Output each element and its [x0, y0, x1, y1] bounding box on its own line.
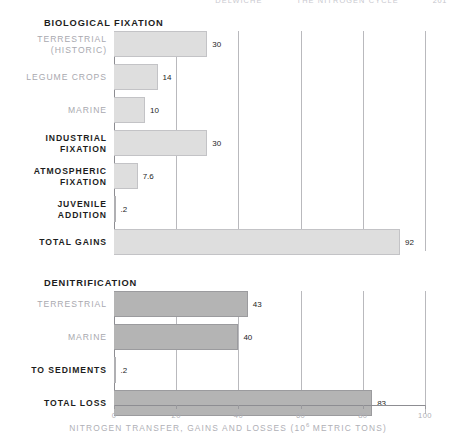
bar-value-label: 30 — [207, 139, 221, 148]
bar-label: JUVENILEADDITION — [57, 199, 107, 220]
x-axis-tick — [425, 405, 426, 409]
bar — [114, 163, 138, 189]
bar — [114, 64, 158, 90]
bar-row: MARINE40 — [114, 324, 425, 350]
x-axis-tick-label: 80 — [358, 411, 367, 420]
x-axis-tick — [363, 405, 364, 409]
bar-row: TOTAL LOSS83 — [114, 390, 425, 416]
bar — [114, 291, 248, 317]
x-axis: 020406080100 — [114, 405, 425, 406]
bar-value-label: 10 — [145, 106, 159, 115]
x-axis-title-main: NITROGEN TRANSFER, GAINS AND LOSSES (10 — [69, 423, 306, 433]
bar-row: TERRESTRIAL43 — [114, 291, 425, 317]
bar-value-label: 7.6 — [138, 172, 154, 181]
bar — [114, 324, 238, 350]
bar-row: INDUSTRIALFIXATION30 — [114, 130, 425, 156]
bar-row: TO SEDIMENTS.2 — [114, 357, 425, 383]
bar-label: TOTAL GAINS — [39, 237, 107, 248]
x-axis-tick-label: 60 — [296, 411, 305, 420]
bar-row: LEGUME CROPS14 — [114, 64, 425, 90]
x-axis-tick-label: 0 — [112, 411, 117, 420]
bar-row: ATMOSPHERICFIXATION7.6 — [114, 163, 425, 189]
bar-value-label: 92 — [400, 238, 414, 247]
x-axis-title: NITROGEN TRANSFER, GAINS AND LOSSES (106… — [0, 422, 456, 433]
bar-value-label: 14 — [158, 73, 172, 82]
bar — [114, 97, 145, 123]
x-axis-tick-label: 20 — [172, 411, 181, 420]
bar-value-label: 40 — [238, 333, 252, 342]
gridline-100-extension — [425, 291, 426, 414]
bar-row: TERRESTRIAL(HISTORIC)30 — [114, 31, 425, 57]
bar — [114, 130, 207, 156]
bar-row: MARINE10 — [114, 97, 425, 123]
bar — [114, 31, 207, 57]
x-axis-tick — [114, 405, 115, 409]
plot-area-gains: TERRESTRIAL(HISTORIC)30LEGUME CROPS14MAR… — [114, 31, 425, 251]
bar-label: MARINE — [68, 105, 107, 116]
x-axis-tick — [301, 405, 302, 409]
bar-value-label: .2 — [116, 366, 128, 375]
panel-title-biological-fixation: BIOLOGICAL FIXATION — [44, 18, 164, 28]
bar-label: TERRESTRIAL — [37, 299, 107, 310]
panel-title-denitrification: DENITRIFICATION — [44, 278, 137, 288]
bar-label: INDUSTRIALFIXATION — [45, 133, 107, 154]
bar-label: MARINE — [68, 332, 107, 343]
bar-chart-figure: BIOLOGICAL FIXATION DENITRIFICATION TERR… — [0, 0, 456, 440]
bar — [114, 229, 400, 255]
bar-label: TO SEDIMENTS — [31, 365, 107, 376]
x-axis-tick — [238, 405, 239, 409]
gridline-100 — [425, 31, 426, 251]
bar-value-label: 83 — [372, 399, 386, 408]
x-axis-tick-label: 40 — [234, 411, 243, 420]
x-axis-tick-label: 100 — [418, 411, 432, 420]
plot-area-losses: TERRESTRIAL43MARINE40TO SEDIMENTS.2TOTAL… — [114, 291, 425, 405]
bar-value-label: 30 — [207, 40, 221, 49]
bar-label: TERRESTRIAL(HISTORIC) — [37, 34, 107, 55]
bar-row: JUVENILEADDITION.2 — [114, 196, 425, 222]
bar-value-label: 43 — [248, 300, 262, 309]
bar-label: ATMOSPHERICFIXATION — [34, 166, 107, 187]
bar-value-label: .2 — [116, 205, 128, 214]
bar-label: TOTAL LOSS — [44, 398, 107, 409]
bar — [114, 390, 372, 416]
bar-row: TOTAL GAINS92 — [114, 229, 425, 255]
bar-label: LEGUME CROPS — [26, 72, 107, 83]
x-axis-tick — [176, 405, 177, 409]
x-axis-title-tail: METRIC TONS) — [309, 423, 386, 433]
